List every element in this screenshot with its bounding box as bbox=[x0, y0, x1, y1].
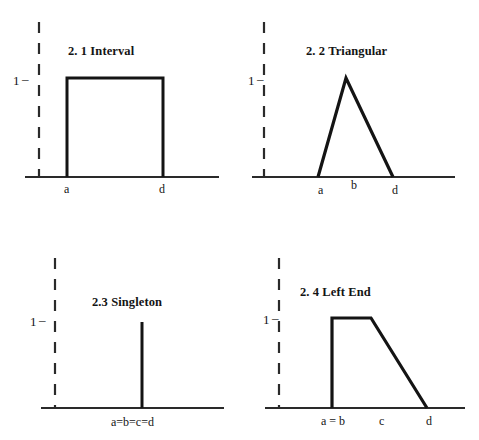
leftend-membership-curve bbox=[332, 318, 427, 408]
leftend-plot bbox=[240, 220, 479, 440]
y-tick-one-interval: 1 bbox=[13, 74, 19, 87]
x-tick-a-interval: a bbox=[64, 183, 69, 195]
x-tick-ab-leftend: a = b bbox=[321, 415, 345, 427]
panel-title-triangular: 2. 2 Triangular bbox=[306, 45, 387, 58]
fuzzy-membership-figure: 2. 1 Interval 1 – a d 2. 2 Triangular 1 … bbox=[0, 0, 479, 440]
panel-singleton: 2.3 Singleton 1 – a=b=c=d bbox=[0, 220, 239, 440]
x-tick-a-triangular: a bbox=[318, 184, 323, 196]
x-tick-d-interval: d bbox=[159, 183, 165, 195]
y-tick-dash-triangular: – bbox=[257, 72, 263, 85]
panel-title-leftend: 2. 4 Left End bbox=[300, 286, 371, 299]
panel-triangular: 2. 2 Triangular 1 – a b d bbox=[240, 0, 479, 220]
y-tick-dash-singleton: – bbox=[39, 313, 45, 326]
triangular-plot bbox=[240, 0, 479, 220]
y-tick-one-leftend: 1 bbox=[263, 313, 269, 326]
panel-leftend: 2. 4 Left End 1 – a = b c d bbox=[240, 220, 479, 440]
y-tick-one-singleton: 1 bbox=[30, 315, 36, 328]
panel-title-interval: 2. 1 Interval bbox=[68, 45, 134, 58]
x-tick-d-triangular: d bbox=[392, 184, 398, 196]
x-tick-c-leftend: c bbox=[379, 415, 384, 427]
x-tick-d-leftend: d bbox=[426, 415, 432, 427]
interval-membership-curve bbox=[67, 78, 163, 177]
panel-title-singleton: 2.3 Singleton bbox=[92, 296, 162, 309]
x-tick-b-triangular: b bbox=[351, 179, 357, 191]
interval-plot bbox=[0, 0, 239, 220]
y-tick-dash-interval: – bbox=[22, 72, 28, 85]
panel-interval: 2. 1 Interval 1 – a d bbox=[0, 0, 239, 220]
y-tick-one-triangular: 1 bbox=[248, 74, 254, 87]
x-tick-abcd-singleton: a=b=c=d bbox=[111, 416, 154, 428]
singleton-plot bbox=[0, 220, 239, 440]
y-tick-dash-leftend: – bbox=[272, 311, 278, 324]
triangular-membership-curve bbox=[318, 78, 393, 177]
